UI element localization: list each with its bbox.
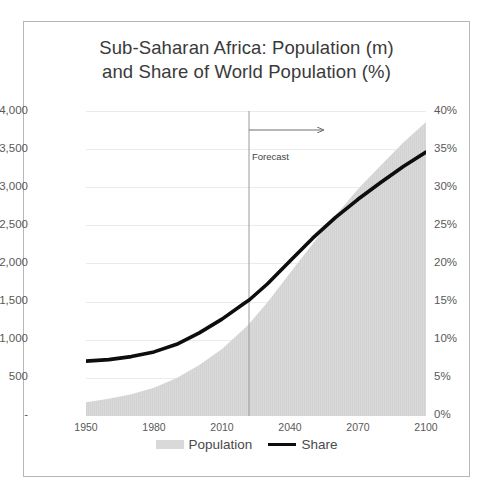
y2-axis-tick-35pct: 35% [434,142,483,154]
y-axis-tick-3000: 3,000 [0,180,28,192]
y-axis-tick-zero: - [0,408,28,420]
chart-title: Sub-Saharan Africa: Population (m) and S… [24,36,469,85]
x-axis-tick-2040: 2040 [267,421,313,433]
chart-legend: Population Share [24,437,469,452]
plot-svg [86,111,426,416]
y-axis-tick-4000: 4,000 [0,104,28,116]
legend-item-share: Share [268,437,337,452]
y-axis-tick-2500: 2,500 [0,218,28,230]
legend-item-population: Population [156,437,253,452]
y2-axis-tick-25pct: 25% [434,218,483,230]
legend-label-population: Population [189,437,253,452]
y2-axis-tick-5pct: 5% [434,370,483,382]
plot-area [86,111,426,416]
x-axis-tick-2100: 2100 [403,421,449,433]
y-axis-tick-1000: 1,000 [0,332,28,344]
share-line-swatch-icon [268,443,296,446]
y2-axis-tick-10pct: 10% [434,332,483,344]
y2-axis-tick-40pct: 40% [434,104,483,116]
legend-label-share: Share [301,437,337,452]
x-axis-tick-1980: 1980 [131,421,177,433]
y-axis-tick-1500: 1,500 [0,294,28,306]
x-axis-tick-1950: 1950 [63,421,109,433]
y2-axis-tick-30pct: 30% [434,180,483,192]
population-swatch-icon [156,440,184,449]
x-axis-tick-2070: 2070 [335,421,381,433]
y-axis-tick-2000: 2,000 [0,256,28,268]
x-axis-tick-2010: 2010 [199,421,245,433]
y2-axis-tick-0pct: 0% [434,408,483,420]
chart-title-line-1: Sub-Saharan Africa: Population (m) [24,36,469,60]
y2-axis-tick-20pct: 20% [434,256,483,268]
population-area-series [86,122,426,416]
y-axis-tick-500: 500 [0,370,28,382]
chart-container: Sub-Saharan Africa: Population (m) and S… [23,21,470,477]
y2-axis-tick-15pct: 15% [434,294,483,306]
y-axis-tick-3500: 3,500 [0,142,28,154]
chart-title-line-2: and Share of World Population (%) [24,60,469,84]
